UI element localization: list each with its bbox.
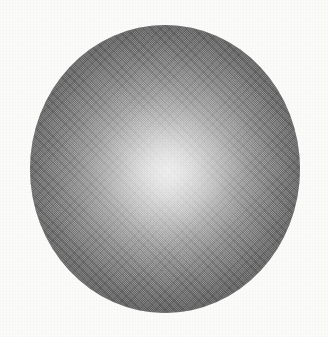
figure-canvas — [0, 0, 328, 337]
sphere-terminator-shadow — [30, 25, 300, 313]
shaded-sphere — [30, 25, 300, 313]
bleed-through-smudge — [56, 316, 256, 329]
